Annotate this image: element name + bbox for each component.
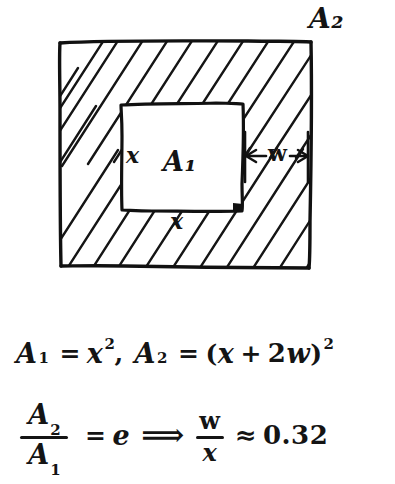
fraction-denominator-A1: A1 [25, 441, 62, 474]
page-root: A₂ A₁ x x w A1 = x2 , A2 = ( x + 2 w ) [0, 0, 395, 484]
eq1-equals-2: = [178, 339, 199, 368]
eq1-plus: + [240, 339, 261, 368]
inner-corner-mark [233, 203, 243, 211]
fraction-denominator-x: x [200, 441, 220, 465]
label-side-x-bottom: x [170, 208, 184, 234]
eq1-A1-symbol: A [16, 338, 37, 369]
eq2-implies-arrow: ⟹ [141, 417, 185, 452]
eq2-A1-subscript: 1 [50, 461, 60, 479]
label-border-width-w: w [268, 140, 287, 166]
eq1-x-symbol: x [87, 338, 104, 369]
equation-line-2: A2 A1 = e ⟹ w x ≈ 0.32 [0, 400, 395, 470]
equation-line-1: A1 = x2 , A2 = ( x + 2 w )2 [0, 318, 395, 388]
eq1-w-symbol: w [286, 338, 310, 369]
eq2-A2-subscript: 2 [50, 421, 60, 439]
eq2-A1-symbol: A [28, 439, 49, 470]
nested-squares-figure [0, 0, 395, 300]
fraction-w-over-x: w x [196, 409, 224, 465]
eq1-comma: , [114, 339, 123, 368]
fraction-A2-over-A1: A2 A1 [20, 401, 68, 473]
eq1-A1-subscript: 1 [38, 349, 49, 367]
eq1-close-paren: ) [310, 339, 322, 368]
fraction-numerator-A2: A2 [25, 401, 62, 434]
eq1-A2-subscript: 2 [157, 349, 168, 367]
figure-region: A₂ A₁ x x w [0, 0, 395, 300]
eq1-x2-symbol: x [218, 338, 235, 369]
label-outer-area-A2: A₂ [309, 2, 344, 35]
eq1-equals-1: = [59, 339, 80, 368]
eq1-open-paren: ( [205, 339, 217, 368]
eq1-coefficient-two: 2 [268, 338, 287, 368]
eq2-approx-sign: ≈ [235, 420, 257, 450]
eq1-x-exponent: 2 [104, 335, 115, 353]
label-inner-area-A1: A₁ [163, 146, 197, 177]
label-side-x-left: x [126, 142, 140, 168]
eq1-paren-exponent: 2 [324, 335, 335, 353]
eq2-equals: = [85, 421, 106, 450]
eq2-result-value: 0.32 [263, 420, 328, 450]
eq2-A2-symbol: A [28, 399, 49, 430]
fraction-numerator-w: w [196, 409, 223, 433]
equations-region: A1 = x2 , A2 = ( x + 2 w )2 A2 A1 [0, 300, 395, 484]
eq1-A2-symbol: A [135, 338, 156, 369]
eq2-e-symbol: e [112, 420, 130, 451]
